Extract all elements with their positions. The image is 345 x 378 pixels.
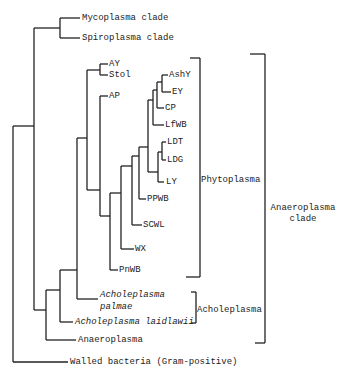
leaf-scwl: SCWL	[143, 220, 165, 230]
leaf-ppwb: PPWB	[147, 194, 169, 204]
bracket-label-anaeroplasma-clade-line1: Anaeroplasma	[267, 203, 339, 213]
leaf-lfwb: LfWB	[165, 120, 187, 130]
leaf-ly: LY	[166, 177, 177, 187]
leaf-wx: WX	[135, 244, 146, 254]
leaf-acholeplasma-palmae-line1: Acholeplasma	[100, 290, 165, 300]
leaf-stol: Stol	[109, 70, 131, 80]
leaf-anaeroplasma: Anaeroplasma	[78, 335, 143, 345]
leaf-walled-bacteria: Walled bacteria (Gram-positive)	[70, 357, 237, 367]
leaf-ay: AY	[109, 59, 120, 69]
leaf-ap: AP	[109, 91, 120, 101]
leaf-cp: CP	[165, 103, 176, 113]
bracket-label-phytoplasma: Phytoplasma	[201, 175, 260, 185]
leaf-acholeplasma-palmae-line2: palmae	[100, 302, 132, 312]
leaf-acholeplasma-laidlawii: Acholeplasma laidlawii	[75, 317, 194, 327]
leaf-ldt: LDT	[167, 137, 183, 147]
bracket-label-anaeroplasma-clade-line2: clade	[267, 214, 339, 224]
leaf-ey: EY	[172, 87, 183, 97]
phylogenetic-tree: Mycoplasma clade Spiroplasma clade AY St…	[0, 0, 345, 378]
leaf-ashy: AshY	[169, 70, 191, 80]
leaf-mycoplasma-clade: Mycoplasma clade	[82, 13, 168, 23]
leaf-pnwb: PnWB	[119, 265, 141, 275]
bracket-label-acholeplasma: Acholeplasma	[197, 305, 262, 315]
leaf-spiroplasma-clade: Spiroplasma clade	[82, 33, 174, 43]
leaf-ldg: LDG	[167, 155, 183, 165]
